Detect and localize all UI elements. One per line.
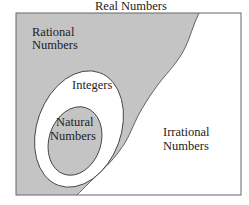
irrational-label-line1: Irrational — [163, 125, 210, 139]
integers-label: Integers — [72, 78, 112, 92]
natural-label-line1: Natural — [56, 115, 93, 129]
diagram-title: Real Numbers — [95, 0, 167, 13]
natural-label-line2: Numbers — [50, 129, 96, 143]
rational-label-line2: Numbers — [32, 38, 78, 52]
rational-label-line1: Rational — [32, 25, 74, 39]
irrational-label-line2: Numbers — [163, 139, 209, 153]
